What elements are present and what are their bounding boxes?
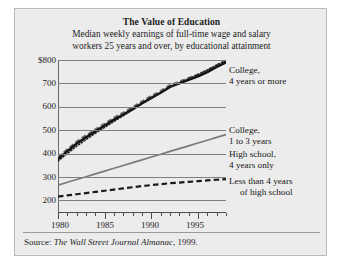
source-divider — [23, 232, 320, 233]
gridline-800 — [58, 60, 226, 61]
gridline-200 — [58, 200, 226, 201]
x-tick-mark-1986 — [114, 213, 115, 216]
source-prefix: Source: — [24, 237, 54, 247]
legend-less-than-high-school: Less than 4 years of high school — [229, 176, 293, 197]
plot-area — [58, 60, 226, 212]
x-tick-mark-1982 — [77, 213, 78, 216]
chart-subtitle-line2: workers 25 years and over, by educationa… — [72, 41, 270, 51]
x-tick-mark-1993 — [179, 213, 180, 216]
y-axis-labels: $800 700 600 500 400 300 200 — [15, 9, 56, 219]
series-line-less-than-high-school — [58, 179, 226, 197]
y-tick-600: 600 — [16, 102, 56, 111]
x-tick-1980: 1980 — [42, 220, 78, 230]
x-tick-mark-1998 — [226, 213, 227, 216]
gridline-400 — [58, 154, 226, 155]
gridline-700 — [58, 83, 226, 84]
x-tick-mark-1997 — [217, 213, 218, 216]
y-tick-800: $800 — [16, 56, 56, 65]
gridline-300 — [58, 177, 226, 178]
x-tick-mark-1990 — [151, 213, 152, 219]
legend-high-school-4-years-line1: High school, — [229, 149, 276, 159]
x-tick-mark-1991 — [161, 213, 162, 216]
x-tick-mark-1989 — [142, 213, 143, 216]
legend-college-1-to-3: College, 1 to 3 years — [229, 125, 272, 146]
x-tick-mark-1996 — [207, 213, 208, 216]
y-tick-500: 500 — [16, 126, 56, 135]
legend-high-school-4-years: High school, 4 years only — [229, 149, 276, 170]
source-suffix: , 1999. — [173, 237, 198, 247]
x-tick-mark-1984 — [95, 213, 96, 216]
x-tick-mark-1994 — [189, 213, 190, 216]
source-publication: The Wall Street Journal Almanac — [54, 237, 173, 247]
x-tick-mark-1980 — [58, 213, 59, 219]
legend-college-4-or-more-line2: 4 years or more — [229, 76, 286, 87]
x-tick-1995: 1995 — [177, 220, 213, 230]
legend-college-4-or-more-line1: College, — [229, 65, 260, 75]
legend-college-4-or-more: College, 4 years or more — [229, 65, 286, 86]
source-note: Source: The Wall Street Journal Almanac,… — [24, 237, 198, 247]
x-tick-mark-1988 — [133, 213, 134, 216]
y-tick-200: 200 — [16, 196, 56, 205]
x-tick-mark-1985 — [105, 213, 106, 219]
x-tick-mark-1981 — [67, 213, 68, 216]
x-tick-mark-1995 — [198, 213, 199, 219]
figure-panel: The Value of Education Median weekly ear… — [14, 8, 327, 256]
legend-college-1-to-3-line2: 1 to 3 years — [229, 136, 272, 147]
legend-less-than-high-school-line1: Less than 4 years — [229, 176, 293, 186]
x-tick-mark-1987 — [123, 213, 124, 216]
gridline-500 — [58, 130, 226, 131]
x-tick-1985: 1985 — [87, 220, 123, 230]
x-tick-mark-1992 — [170, 213, 171, 216]
series-line-college-4-or-more — [58, 62, 226, 159]
y-tick-400: 400 — [16, 149, 56, 158]
y-tick-300: 300 — [16, 173, 56, 182]
legend-high-school-4-years-line2: 4 years only — [229, 160, 276, 171]
title-block: The Value of Education Median weekly ear… — [15, 16, 328, 52]
gridline-600 — [58, 107, 226, 108]
legend-college-1-to-3-line1: College, — [229, 125, 260, 135]
chart-subtitle-line1: Median weekly earnings of full-time wage… — [72, 29, 271, 39]
legend-less-than-high-school-line2: of high school — [229, 187, 293, 198]
y-tick-700: 700 — [16, 79, 56, 88]
x-tick-mark-1983 — [86, 213, 87, 216]
x-tick-1990: 1990 — [132, 220, 168, 230]
page-title: The Value of Education — [15, 16, 328, 28]
chart-subtitle: Median weekly earnings of full-time wage… — [15, 29, 328, 52]
